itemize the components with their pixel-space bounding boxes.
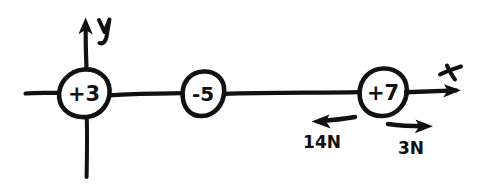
node-charge-2-label: -5 xyxy=(192,82,214,106)
x-axis-segment-1 xyxy=(110,93,182,95)
node-charge-2[interactable]: -5 xyxy=(183,71,225,116)
x-axis-left-stub xyxy=(26,93,59,94)
y-axis-label-glyph xyxy=(99,20,110,44)
node-charge-3[interactable]: +7 xyxy=(360,68,407,116)
force-vector-right: 3N xyxy=(388,120,433,159)
node-charge-1-label: +3 xyxy=(68,82,100,106)
diagram-canvas: y x +3 -5 +7 14N xyxy=(0,0,481,185)
node-charge-3-label: +7 xyxy=(367,81,399,105)
force-vector-left: 14N xyxy=(303,115,355,153)
node-charge-1[interactable]: +3 xyxy=(59,69,109,117)
x-axis-segment-2 xyxy=(224,92,359,94)
x-axis-label-group: x xyxy=(440,66,461,80)
hand-drawn-physics-diagram: y x +3 -5 +7 14N xyxy=(0,0,481,185)
force-left-label: 14N xyxy=(303,132,341,152)
y-axis-label-group: y xyxy=(99,20,110,44)
force-right-label: 3N xyxy=(398,138,424,158)
